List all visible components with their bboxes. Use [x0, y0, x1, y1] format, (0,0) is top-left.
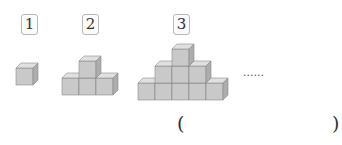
figure-2: [62, 56, 118, 95]
continuation-ellipsis: ......: [243, 66, 264, 79]
cube-figures: [0, 0, 342, 110]
figure-1: [16, 63, 38, 85]
answer-close-paren: ): [332, 112, 339, 134]
figure-3: [138, 44, 228, 100]
answer-open-paren: (: [177, 112, 184, 134]
answer-blank[interactable]: [190, 114, 330, 134]
